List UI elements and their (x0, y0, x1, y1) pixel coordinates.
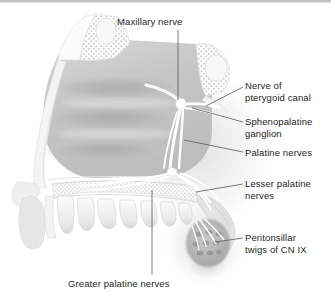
upper-lip (19, 197, 45, 249)
label-sphenopalatine-ganglion: Sphenopalatine ganglion (245, 116, 312, 139)
label-lesser-palatine-nerves: Lesser palatine nerves (245, 178, 311, 201)
label-peritonsillar-twigs: Peritonsillar twigs of CN IX (245, 232, 307, 255)
label-greater-palatine-nerves: Greater palatine nerves (68, 278, 170, 290)
nose-tip-and-lip (12, 182, 56, 249)
label-maxillary-nerve: Maxillary nerve (117, 16, 182, 28)
frontal-sinus (96, 18, 116, 44)
sphenoid-sinus (205, 55, 227, 81)
label-palatine-nerves: Palatine nerves (245, 147, 312, 159)
label-nerve-of-pterygoid-canal: Nerve of pterygoid canal (245, 80, 311, 103)
